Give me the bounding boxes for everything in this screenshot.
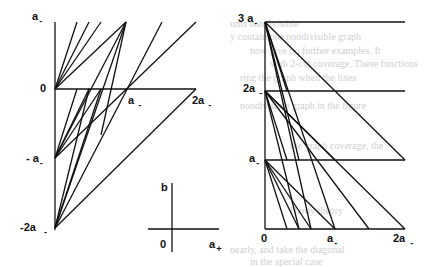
right-x-label-0: 0 — [261, 232, 267, 244]
left-y-label-neg-a: - a- — [26, 152, 43, 164]
inset-label-origin: 0 — [160, 238, 166, 250]
inset-label-b: b — [161, 181, 168, 193]
inset-label-a-plus: a+ — [209, 238, 221, 250]
right-x-label-a: a- — [327, 232, 337, 244]
right-y-label-a: a- — [249, 152, 259, 164]
left-x-label-2a: 2a- — [192, 94, 211, 106]
left-y-label-a: a- — [32, 10, 42, 22]
right-y-label-3a: 3 a- — [238, 12, 257, 24]
right-y-label-2a: 2a- — [243, 82, 262, 94]
left-panel-lines — [55, 22, 196, 230]
left-x-label-a: a- — [128, 94, 141, 106]
right-x-label-2a: 2a- — [393, 232, 413, 244]
left-y-label-neg-2a: -2a- — [20, 221, 47, 233]
left-y-label-0: 0 — [40, 82, 46, 94]
right-panel-lines — [265, 22, 405, 229]
